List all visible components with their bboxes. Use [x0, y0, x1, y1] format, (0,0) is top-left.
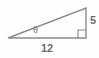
triangle-outline	[8, 8, 86, 38]
right-angle-marker-icon	[78, 30, 86, 38]
height-length-label: 5	[90, 15, 96, 26]
angle-label-theta: θ	[33, 26, 38, 35]
triangle-figure: θ 12 5	[0, 0, 99, 58]
base-length-label: 12	[41, 43, 53, 54]
